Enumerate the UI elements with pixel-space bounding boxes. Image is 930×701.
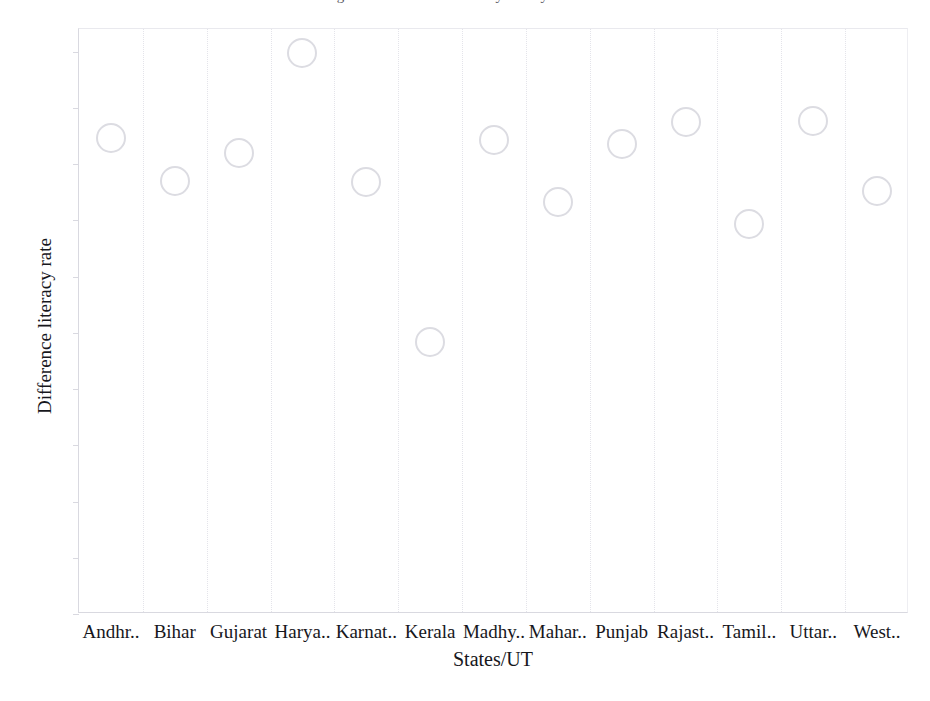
x-tick-label: Mahar.. (529, 621, 587, 643)
panel-divider (207, 29, 208, 612)
data-point[interactable] (734, 209, 764, 239)
y-tick-mark (73, 164, 79, 165)
panel-divider (781, 29, 782, 612)
y-axis-title: Difference literacy rate (34, 66, 56, 586)
panel-divider (398, 29, 399, 612)
panel-divider (590, 29, 591, 612)
y-tick-mark (73, 445, 79, 446)
data-point[interactable] (287, 38, 317, 68)
data-point[interactable] (607, 129, 637, 159)
panel-divider (143, 29, 144, 612)
y-tick-mark (73, 389, 79, 390)
y-tick-mark (73, 502, 79, 503)
x-tick-label: Gujarat (210, 621, 267, 643)
data-point[interactable] (671, 107, 701, 137)
x-tick-label: Karnat.. (336, 621, 397, 643)
x-tick-label: Rajast.. (657, 621, 714, 643)
panel-divider (717, 29, 718, 612)
plot-panel: 05101520253035404550 Andhr..BiharGujarat… (78, 28, 908, 613)
panel-divider (334, 29, 335, 612)
panel-divider (654, 29, 655, 612)
data-point[interactable] (96, 123, 126, 153)
x-tick-label: Tamil.. (723, 621, 777, 643)
x-tick-label: Bihar (154, 621, 196, 643)
y-tick-mark (73, 614, 79, 615)
x-tick-label: Harya.. (274, 621, 330, 643)
y-tick-mark (73, 277, 79, 278)
panel-divider (271, 29, 272, 612)
y-tick-mark (73, 333, 79, 334)
data-point[interactable] (479, 125, 509, 155)
panel-divider (462, 29, 463, 612)
chart-figure: Figure : Difference in literacy rate by … (0, 0, 930, 701)
x-tick-label: Andhr.. (82, 621, 139, 643)
x-tick-label: Kerala (405, 621, 456, 643)
data-point[interactable] (862, 176, 892, 206)
x-tick-label: Madhy.. (463, 621, 525, 643)
y-tick-mark (73, 108, 79, 109)
y-tick-mark (73, 220, 79, 221)
data-point[interactable] (415, 327, 445, 357)
data-point[interactable] (543, 187, 573, 217)
panel-divider (845, 29, 846, 612)
data-point[interactable] (160, 166, 190, 196)
data-point[interactable] (798, 106, 828, 136)
x-tick-label: Uttar.. (789, 621, 837, 643)
data-point[interactable] (351, 167, 381, 197)
x-tick-label: West.. (854, 621, 901, 643)
y-tick-mark (73, 52, 79, 53)
x-axis-title: States/UT (78, 648, 908, 671)
chart-title: Figure : Difference in literacy rate by … (0, 0, 930, 3)
data-point[interactable] (224, 138, 254, 168)
panel-divider (526, 29, 527, 612)
y-tick-mark (73, 558, 79, 559)
x-tick-label: Punjab (595, 621, 648, 643)
